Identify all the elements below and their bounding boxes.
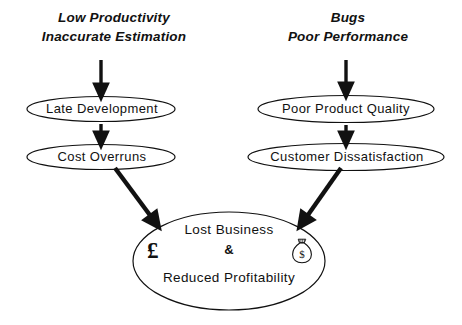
cause-header-right: Bugs Poor Performance bbox=[258, 8, 438, 46]
outcome-symbol-row: £ & $ bbox=[133, 238, 325, 268]
arrow-customer-dissatisfaction-to-outcome bbox=[303, 168, 341, 222]
node-label-late-development: Late Development bbox=[28, 101, 176, 116]
money-bag-dollar-glyph: $ bbox=[299, 248, 305, 260]
node-label-customer-dissatisfaction: Customer Dissatisfaction bbox=[248, 149, 446, 164]
cause-header-left: Low Productivity Inaccurate Estimation bbox=[14, 8, 214, 46]
outcome-label-reduced-profitability: Reduced Profitability bbox=[133, 270, 325, 285]
cause-header-right-line1: Bugs bbox=[258, 8, 438, 27]
cause-header-left-line2: Inaccurate Estimation bbox=[14, 27, 214, 46]
money-bag-icon: $ bbox=[291, 238, 313, 264]
cause-header-right-line2: Poor Performance bbox=[258, 27, 438, 46]
cause-header-left-line1: Low Productivity bbox=[14, 8, 214, 27]
cause-effect-diagram: Low Productivity Inaccurate Estimation B… bbox=[0, 0, 462, 325]
outcome-label-lost-business: Lost Business bbox=[133, 222, 325, 237]
outcome-node-content: Lost Business £ & $ Reduced Profitabilit… bbox=[133, 222, 325, 285]
arrow-cost-overruns-to-outcome bbox=[115, 168, 155, 222]
node-label-poor-product-quality: Poor Product Quality bbox=[256, 101, 436, 116]
node-label-cost-overruns: Cost Overruns bbox=[28, 149, 176, 164]
